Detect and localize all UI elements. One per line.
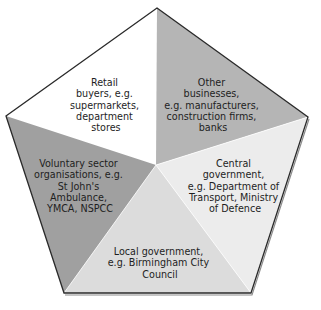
label-line: YMCA, NSPCC	[46, 203, 113, 214]
label-line: Ambulance,	[50, 192, 107, 203]
label-line: e.g. Department of	[188, 181, 280, 192]
label-line: buyers, e.g.	[76, 88, 133, 99]
label-line: e.g. manufacturers,	[164, 100, 259, 111]
label-line: Local government,	[114, 246, 203, 257]
label-line: Other	[198, 77, 225, 88]
label-line: e.g. Birmingham City	[108, 257, 210, 268]
label-line: banks	[199, 122, 228, 133]
label-line: Central	[216, 158, 251, 169]
label-line: St John's	[58, 181, 99, 192]
label-line: businesses,	[184, 88, 240, 99]
label-line: of Defence	[209, 203, 261, 214]
label-line: Transport, Ministry	[188, 192, 279, 203]
label-line: Retail	[91, 77, 118, 88]
label-line: supermarkets,	[70, 100, 139, 111]
label-line: department	[76, 111, 133, 122]
pentagon-diagram: Retail buyers, e.g. supermarkets, depart…	[0, 0, 321, 310]
label-line: Voluntary sector	[39, 158, 118, 169]
label-line: organisations, e.g.	[34, 169, 123, 180]
label-line: Council	[142, 269, 177, 280]
label-line: construction firms,	[167, 111, 257, 122]
label-line: stores	[91, 122, 120, 133]
label-line: government,	[203, 169, 265, 180]
